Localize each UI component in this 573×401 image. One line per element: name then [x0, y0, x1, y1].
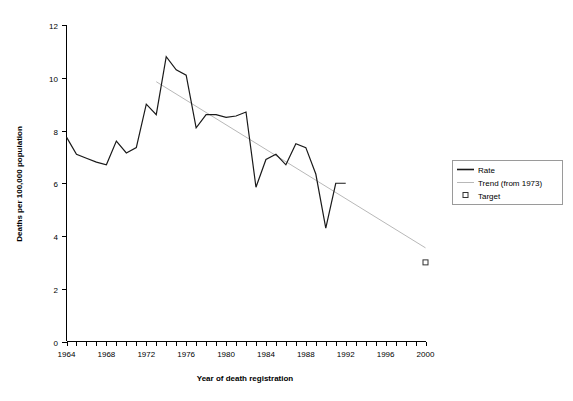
y-tick-label: 10 [49, 75, 58, 84]
y-tick-label: 2 [54, 286, 59, 295]
legend-item-label: Rate [478, 166, 495, 175]
line-chart: Deaths per 100,000 population Year of de… [0, 0, 573, 401]
series-rate-line [67, 57, 346, 228]
x-tick-label: 1984 [257, 350, 275, 359]
legend-item-label: Trend (from 1973) [478, 179, 543, 188]
x-tick-label: 1964 [58, 350, 76, 359]
x-tick-label: 2000 [417, 350, 435, 359]
series-trend-line [156, 82, 425, 248]
chart-container: Deaths per 100,000 population Year of de… [0, 0, 573, 401]
y-tick-label: 6 [54, 180, 59, 189]
x-tick-label: 1992 [337, 350, 355, 359]
x-axis-ticks [68, 342, 427, 346]
target-marker [423, 260, 428, 265]
y-tick-label: 0 [54, 339, 59, 348]
y-axis-title: Deaths per 100,000 population [15, 126, 24, 242]
x-tick-label: 1980 [217, 350, 235, 359]
chart-legend: RateTrend (from 1973)Target [453, 161, 563, 205]
y-axis-ticks [62, 26, 67, 343]
y-tick-label: 8 [54, 128, 59, 137]
x-axis-title: Year of death registration [197, 374, 294, 383]
y-axis-tick-labels: 024681012 [49, 22, 58, 348]
x-tick-label: 1972 [137, 350, 155, 359]
legend-item-label: Target [478, 192, 501, 201]
legend-swatch [463, 193, 468, 198]
x-tick-label: 1976 [177, 350, 195, 359]
series-target-markers [423, 260, 428, 265]
x-tick-label: 1988 [297, 350, 315, 359]
x-axis-tick-labels: 1964196819721976198019841988199219962000 [58, 350, 435, 359]
y-tick-label: 4 [54, 233, 59, 242]
x-tick-label: 1996 [377, 350, 395, 359]
y-tick-label: 12 [49, 22, 58, 31]
x-tick-label: 1968 [97, 350, 115, 359]
